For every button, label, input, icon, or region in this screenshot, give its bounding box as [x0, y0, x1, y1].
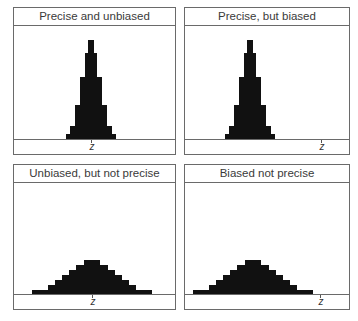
histogram: [185, 26, 349, 139]
panel-precise-unbiased: Precise and unbiased z: [13, 7, 176, 155]
panel-unbiased-imprecise: Unbiased, but not precise z: [13, 164, 176, 310]
panel-title: Precise and unbiased: [14, 8, 175, 26]
z-label: z: [320, 141, 325, 152]
x-axis: z: [185, 139, 349, 140]
panel-title: Unbiased, but not precise: [14, 165, 175, 183]
z-label: z: [319, 296, 324, 307]
x-axis: z: [185, 294, 349, 295]
histogram: [185, 183, 349, 294]
histogram-step: [247, 40, 253, 139]
histogram: [14, 26, 175, 139]
panel-title: Biased not precise: [185, 165, 349, 183]
x-axis: z: [14, 139, 175, 140]
histogram-step: [84, 260, 100, 294]
panel-title: Precise, but biased: [185, 8, 349, 26]
x-axis: z: [14, 294, 175, 295]
histogram-step: [88, 40, 94, 139]
z-label: z: [90, 141, 95, 152]
z-label: z: [91, 296, 96, 307]
histogram: [14, 183, 175, 294]
panel-precise-biased: Precise, but biased z: [184, 7, 350, 155]
histogram-step: [245, 260, 261, 294]
panel-biased-imprecise: Biased not precise z: [184, 164, 350, 310]
